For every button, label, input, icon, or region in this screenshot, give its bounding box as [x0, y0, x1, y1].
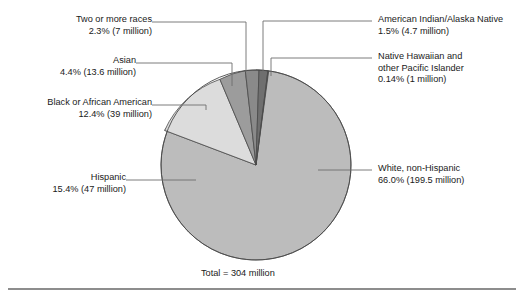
callout-native-hawaiian-pacific-islander-line1: Native Hawaiian and [378, 51, 464, 63]
bottom-divider [8, 288, 516, 290]
callout-white-non-hispanic: White, non-Hispanic 66.0% (199.5 million… [378, 163, 464, 186]
pie-chart-canvas [0, 0, 524, 300]
callout-asian-line1: Asian [0, 55, 136, 67]
pie-slices [161, 70, 351, 260]
callout-white-non-hispanic-line2: 66.0% (199.5 million) [378, 175, 464, 187]
callout-hispanic: Hispanic 15.4% (47 million) [0, 172, 126, 195]
callout-hispanic-line2: 15.4% (47 million) [0, 184, 126, 196]
callout-native-hawaiian-pacific-islander-line3: 0.14% (1 million) [378, 74, 464, 86]
callout-black-or-african-american-line2: 12.4% (39 million) [0, 109, 152, 121]
callout-two-or-more-races: Two or more races 2.3% (7 million) [0, 14, 152, 37]
callout-native-hawaiian-pacific-islander: Native Hawaiian and other Pacific Island… [378, 51, 464, 86]
callout-two-or-more-races-line1: Two or more races [0, 14, 152, 26]
callout-hispanic-line1: Hispanic [0, 172, 126, 184]
total-label: Total = 304 million [201, 268, 275, 278]
figure-pie-chart-us-population: Two or more races 2.3% (7 million) Asian… [0, 0, 524, 300]
callout-two-or-more-races-line2: 2.3% (7 million) [0, 26, 152, 38]
callout-white-non-hispanic-line1: White, non-Hispanic [378, 163, 464, 175]
callout-native-hawaiian-pacific-islander-line2: other Pacific Islander [378, 63, 464, 75]
callout-american-indian-alaska-native-line2: 1.5% (4.7 million) [378, 26, 503, 38]
callout-american-indian-alaska-native: American Indian/Alaska Native 1.5% (4.7 … [378, 14, 503, 37]
callout-asian-line2: 4.4% (13.6 million) [0, 67, 136, 79]
callout-black-or-african-american: Black or African American 12.4% (39 mill… [0, 97, 152, 120]
callout-asian: Asian 4.4% (13.6 million) [0, 55, 136, 78]
callout-american-indian-alaska-native-line1: American Indian/Alaska Native [378, 14, 503, 26]
leader-line-american-indian-alaska-native [263, 21, 372, 72]
callout-black-or-african-american-line1: Black or African American [0, 97, 152, 109]
leader-line-native-hawaiian-pacific-islander [271, 58, 372, 76]
